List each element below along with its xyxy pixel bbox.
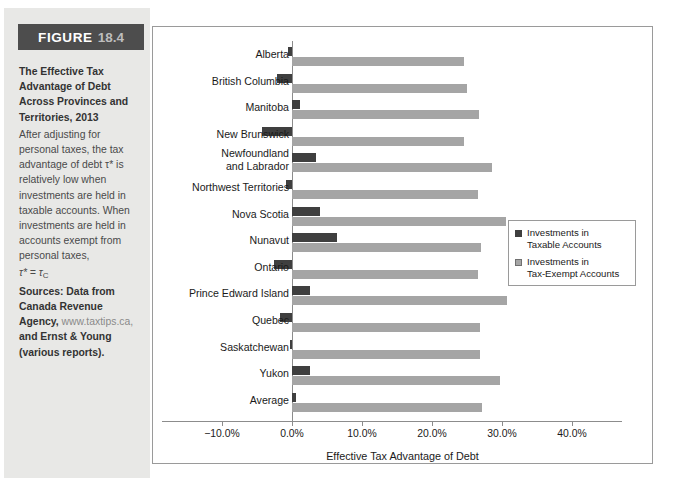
legend-label: Investments in Taxable Accounts <box>527 227 602 250</box>
x-axis-tick-label: 40.0% <box>542 428 602 439</box>
chart-legend: Investments in Taxable AccountsInvestmen… <box>508 220 636 286</box>
bar-tax-exempt <box>292 243 481 252</box>
bar-taxable <box>292 233 337 242</box>
x-axis-tick <box>222 421 223 426</box>
zero-axis-line <box>292 41 293 422</box>
plot-area: AlbertaBritish ColumbiaManitobaNew Bruns… <box>153 27 652 463</box>
x-axis-title: Effective Tax Advantage of Debt <box>153 450 652 462</box>
category-label: Northwest Territories <box>192 181 289 194</box>
category-label: Prince Edward Island <box>189 287 289 300</box>
figure-banner-number: 18.4 <box>98 30 124 45</box>
bar-taxable <box>292 207 320 216</box>
category-label: New Brunswick <box>217 128 289 141</box>
figure-banner-word: FIGURE <box>38 30 93 45</box>
x-axis-tick-label: 0.0% <box>262 428 322 439</box>
category-label: British Columbia <box>212 75 289 88</box>
figure-banner: FIGURE 18.4 <box>18 24 144 50</box>
category-label: Nunavut <box>250 234 289 247</box>
figure-page: FIGURE 18.4 The Effective Tax Advantage … <box>0 0 681 496</box>
bar-taxable <box>292 153 316 162</box>
x-axis-tick-label: 10.0% <box>332 428 392 439</box>
x-axis-tick <box>292 421 293 426</box>
bar-taxable <box>290 340 292 349</box>
bar-taxable <box>292 393 296 402</box>
x-axis-tick-label: 20.0% <box>402 428 462 439</box>
legend-label: Investments in Tax-Exempt Accounts <box>527 256 619 279</box>
category-label: Ontario <box>254 261 289 274</box>
bar-tax-exempt <box>292 323 480 332</box>
chart-panel: AlbertaBritish ColumbiaManitobaNew Bruns… <box>152 26 653 464</box>
legend-item[interactable]: Investments in Tax-Exempt Accounts <box>515 256 629 279</box>
category-label: Manitoba <box>245 101 289 114</box>
formula-subscript: C <box>43 271 49 280</box>
legend-swatch-taxable-icon <box>515 230 522 237</box>
x-axis-tick <box>432 421 433 426</box>
category-label: Yukon <box>260 367 289 380</box>
x-axis-tick <box>572 421 573 426</box>
category-label: Alberta <box>255 48 289 61</box>
category-label: Saskatchewan <box>220 341 289 354</box>
bar-tax-exempt <box>292 190 478 199</box>
x-axis-tick-label: −10.0% <box>192 428 252 439</box>
bar-tax-exempt <box>292 163 492 172</box>
bar-taxable <box>292 286 310 295</box>
legend-item[interactable]: Investments in Taxable Accounts <box>515 227 629 250</box>
sources-url[interactable]: www.taxtips.ca, <box>62 316 134 327</box>
x-axis-tick-label: 30.0% <box>472 428 532 439</box>
bar-tax-exempt <box>292 57 464 66</box>
category-label: Newfoundland and Labrador <box>221 147 289 172</box>
sources-tail: and Ernst & Young (various reports). <box>19 331 112 357</box>
bar-tax-exempt <box>292 296 507 305</box>
category-label: Nova Scotia <box>232 208 289 221</box>
bar-tax-exempt <box>292 137 464 146</box>
x-axis-tick <box>502 421 503 426</box>
x-axis-tick <box>362 421 363 426</box>
category-label: Quebec <box>252 314 289 327</box>
figure-description: After adjusting for personal taxes, the … <box>19 127 141 264</box>
caption-panel: FIGURE 18.4 The Effective Tax Advantage … <box>4 8 150 478</box>
bar-tax-exempt <box>292 217 506 226</box>
caption-body: The Effective Tax Advantage of Debt Acro… <box>19 64 141 360</box>
bar-tax-exempt <box>292 403 482 412</box>
bar-taxable <box>292 366 310 375</box>
bar-tax-exempt <box>292 376 500 385</box>
bar-tax-exempt <box>292 350 480 359</box>
bar-taxable <box>292 100 300 109</box>
bar-tax-exempt <box>292 270 478 279</box>
bar-tax-exempt <box>292 110 479 119</box>
formula-main: τ* = τ <box>19 267 43 278</box>
bar-tax-exempt <box>292 84 467 93</box>
category-label: Average <box>250 394 289 407</box>
x-axis-line <box>162 421 622 422</box>
legend-swatch-exempt-icon <box>515 259 522 266</box>
figure-formula: τ* = τC <box>19 265 141 283</box>
figure-sources: Sources: Data from Canada Revenue Agency… <box>19 284 141 360</box>
figure-title: The Effective Tax Advantage of Debt Acro… <box>19 64 141 125</box>
